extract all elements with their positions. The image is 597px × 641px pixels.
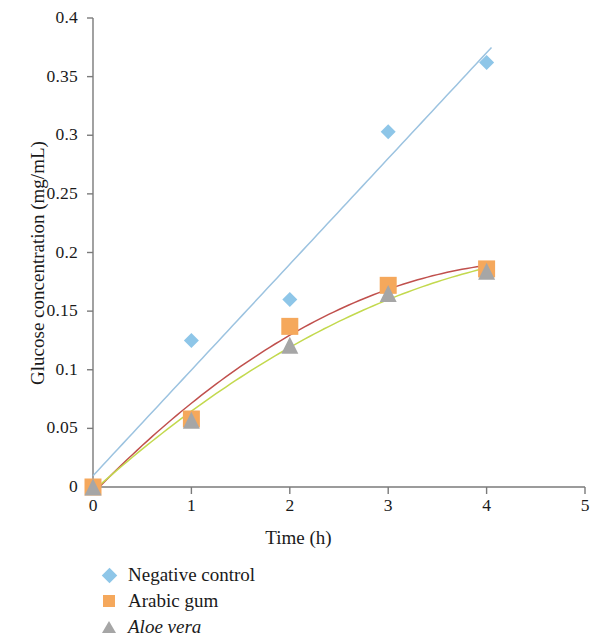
legend-item-negative-control[interactable]: Negative control [96,562,516,588]
trend-line-negative-control [93,47,492,475]
x-axis-title: Time (h) [0,527,597,549]
x-axis-tick-label: 5 [565,497,597,515]
triangle-marker-icon [96,616,122,638]
legend-label: Aloe vera [122,616,201,638]
data-point-negative-control-1 [184,333,199,348]
chart-axes [87,18,585,494]
legend-item-aloe-vera[interactable]: Aloe vera [96,614,516,640]
glucose-concentration-chart: 00.050.10.150.20.250.30.350.4 012345 Glu… [0,0,597,641]
y-axis-title: Glucose concentration (mg/mL) [27,103,49,423]
x-axis-ticks [93,487,585,494]
plot-area [0,0,597,560]
x-axis-tick-label: 1 [171,497,211,515]
y-axis-ticks [87,18,93,487]
y-axis-tick-label: 0 [16,478,78,496]
y-axis-tick-label: 0.4 [16,9,78,27]
data-point-arabic-gum-2 [281,318,298,335]
trend-lines [93,47,492,493]
legend-label: Negative control [122,564,255,586]
diamond-marker-icon [96,564,122,586]
x-axis-tick-labels: 012345 [0,497,597,525]
x-axis-tick-label: 2 [270,497,310,515]
square-marker-icon [96,590,122,612]
chart-legend: Negative controlArabic gumAloe vera [96,562,516,640]
legend-label: Arabic gum [122,590,218,612]
x-axis-tick-label: 3 [368,497,408,515]
legend-item-arabic-gum[interactable]: Arabic gum [96,588,516,614]
x-axis-tick-label: 4 [467,497,507,515]
x-axis-tick-label: 0 [73,497,113,515]
y-axis-tick-label: 0.35 [16,68,78,86]
data-point-negative-control-3 [381,124,396,139]
data-point-negative-control-2 [282,292,297,307]
